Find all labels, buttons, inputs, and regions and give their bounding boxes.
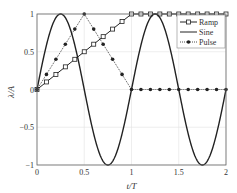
circle-marker-icon (215, 88, 219, 92)
circle-marker-icon (187, 40, 191, 44)
square-marker-icon (73, 57, 77, 61)
circle-marker-icon (196, 88, 200, 92)
square-marker-icon (82, 50, 86, 54)
circle-marker-icon (54, 58, 58, 62)
circle-marker-icon (73, 27, 77, 31)
legend-label: Ramp (199, 18, 218, 27)
circle-marker-icon (205, 88, 209, 92)
legend: Ramp Sine Pulse (177, 15, 225, 48)
y-tick-label: −0.5 (19, 123, 34, 132)
square-marker-icon (111, 27, 115, 31)
circle-marker-icon (111, 58, 115, 62)
circle-marker-icon (168, 88, 172, 92)
circle-marker-icon (92, 27, 96, 31)
circle-marker-icon (186, 88, 190, 92)
y-tick-label: 0.5 (24, 48, 34, 57)
x-tick-label: 0 (35, 168, 39, 177)
circle-marker-icon (149, 88, 153, 92)
y-axis-ticks: −1−0.500.51 (19, 10, 34, 170)
square-marker-icon (44, 80, 48, 84)
x-tick-label: 1.5 (174, 168, 184, 177)
x-tick-label: 0.5 (79, 168, 89, 177)
square-marker-icon (187, 20, 191, 24)
circle-marker-icon (45, 73, 49, 77)
square-marker-icon (92, 42, 96, 46)
y-tick-label: −1 (25, 161, 34, 170)
circle-marker-icon (158, 88, 162, 92)
circle-marker-icon (101, 42, 105, 46)
legend-label: Pulse (199, 38, 217, 47)
x-axis-label: t/T (126, 181, 137, 191)
circle-marker-icon (120, 73, 124, 77)
x-tick-label: 2 (224, 168, 228, 177)
legend-label: Sine (199, 28, 214, 37)
circle-marker-icon (130, 88, 134, 92)
y-axis-label: λ/A (6, 86, 16, 99)
x-axis-ticks: 00.511.52 (35, 168, 228, 177)
circle-marker-icon (64, 42, 68, 46)
square-marker-icon (63, 65, 67, 69)
y-tick-label: 1 (30, 10, 34, 19)
circle-marker-icon (139, 88, 143, 92)
square-marker-icon (120, 20, 124, 24)
chart: 00.511.52 −1−0.500.51 t/T λ/A Ramp Sine … (0, 0, 237, 193)
circle-marker-icon (177, 88, 181, 92)
square-marker-icon (54, 72, 58, 76)
y-tick-label: 0 (30, 86, 34, 95)
x-tick-label: 1 (130, 168, 134, 177)
square-marker-icon (101, 35, 105, 39)
